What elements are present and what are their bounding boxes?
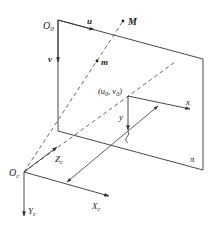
y-axis-label: y	[118, 112, 123, 122]
x-axis-arrow	[128, 96, 190, 109]
x-axis-label: x	[185, 97, 190, 107]
yc-axis-label: Yc	[28, 206, 36, 217]
v-axis-label: v	[48, 54, 53, 64]
image-plane	[58, 20, 203, 170]
optical-axis-ray	[24, 62, 175, 172]
u-axis-label: u	[87, 16, 92, 26]
focal-length-dimension	[67, 106, 158, 182]
xc-axis-arrow	[24, 172, 109, 196]
camera-model-diagram: O0 u v M m (u0, v0) x y π Oc Zc Xc Yc	[0, 0, 214, 229]
camera-origin-label: Oc	[9, 167, 20, 180]
world-point-M	[122, 20, 125, 23]
xc-axis-label: Xc	[91, 201, 101, 212]
pixel-origin-label: O0	[43, 20, 54, 33]
image-plane-label: π	[190, 154, 195, 164]
zc-axis-label: Zc	[55, 154, 63, 165]
image-point-label: m	[101, 57, 108, 67]
world-point-label: M	[127, 16, 138, 27]
image-point-m	[96, 60, 99, 63]
principal-point-label: (u0, v0)	[98, 86, 122, 97]
projection-ray-to-M	[24, 21, 123, 172]
zc-axis-arrow	[24, 147, 57, 172]
